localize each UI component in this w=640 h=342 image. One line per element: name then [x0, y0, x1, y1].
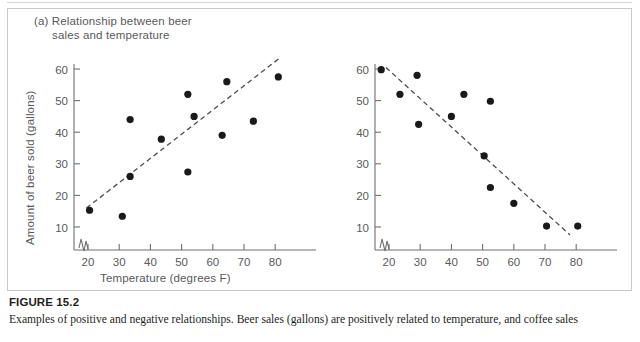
data-point	[275, 73, 282, 80]
data-point	[396, 91, 403, 98]
data-point	[184, 91, 191, 98]
x-tick-label: 40	[445, 256, 458, 268]
data-point	[543, 222, 550, 229]
data-point	[481, 152, 488, 159]
y-tick-label: 60	[55, 64, 68, 76]
y-tick-label: 30	[55, 158, 68, 170]
y-tick-label: 40	[356, 127, 369, 139]
data-point	[158, 136, 165, 143]
data-point	[487, 98, 494, 105]
x-tick-label: 60	[507, 256, 520, 268]
data-point	[86, 207, 93, 214]
panel-b-plot: 10203040506020304050607080	[320, 0, 640, 292]
y-tick-label: 10	[55, 222, 68, 234]
data-point	[184, 168, 191, 175]
data-point	[574, 222, 581, 229]
x-tick-label: 30	[414, 256, 427, 268]
data-point	[378, 66, 385, 73]
data-point	[413, 72, 420, 79]
trendline	[386, 67, 570, 234]
y-tick-label: 30	[356, 158, 369, 170]
y-tick-label: 60	[356, 64, 369, 76]
x-tick-label: 50	[476, 256, 489, 268]
x-tick-label: 30	[113, 256, 126, 268]
data-point	[127, 116, 134, 123]
data-point	[127, 173, 134, 180]
data-point	[460, 91, 467, 98]
figure-page: (a) Relationship between beersales and t…	[0, 0, 640, 342]
y-tick-label: 40	[55, 127, 68, 139]
x-tick-label: 20	[82, 256, 95, 268]
x-tick-label: 60	[206, 256, 219, 268]
x-tick-label: 50	[175, 256, 188, 268]
data-point	[510, 200, 517, 207]
y-tick-label: 20	[55, 190, 68, 202]
y-tick-label: 20	[356, 190, 369, 202]
data-point	[250, 118, 257, 125]
x-tick-label: 20	[383, 256, 396, 268]
caption-block: FIGURE 15.2 Examples of positive and neg…	[9, 296, 631, 327]
panel-beer-sales: (a) Relationship between beersales and t…	[0, 0, 320, 292]
y-tick-label: 50	[55, 95, 68, 107]
data-point	[487, 184, 494, 191]
panel-coffee-sales: (b) Relationship between coffeesales and…	[320, 0, 640, 292]
y-tick-label: 10	[356, 222, 369, 234]
data-point	[415, 121, 422, 128]
x-axis-break-icon	[79, 239, 88, 251]
x-axis-break-icon	[380, 239, 389, 251]
y-tick-label: 50	[356, 95, 369, 107]
x-tick-label: 80	[269, 256, 282, 268]
data-point	[223, 78, 230, 85]
panel-a-plot: 10203040506020304050607080	[0, 0, 320, 292]
data-point	[219, 132, 226, 139]
x-tick-label: 40	[144, 256, 157, 268]
x-tick-label: 80	[570, 256, 583, 268]
figure-number: FIGURE 15.2	[9, 296, 631, 308]
panels-container: (a) Relationship between beersales and t…	[0, 0, 640, 292]
x-tick-label: 70	[539, 256, 552, 268]
x-tick-label: 70	[238, 256, 251, 268]
figure-caption: Examples of positive and negative relati…	[9, 313, 631, 327]
trendline	[86, 58, 279, 208]
data-point	[119, 213, 126, 220]
data-point	[448, 113, 455, 120]
data-point	[190, 113, 197, 120]
